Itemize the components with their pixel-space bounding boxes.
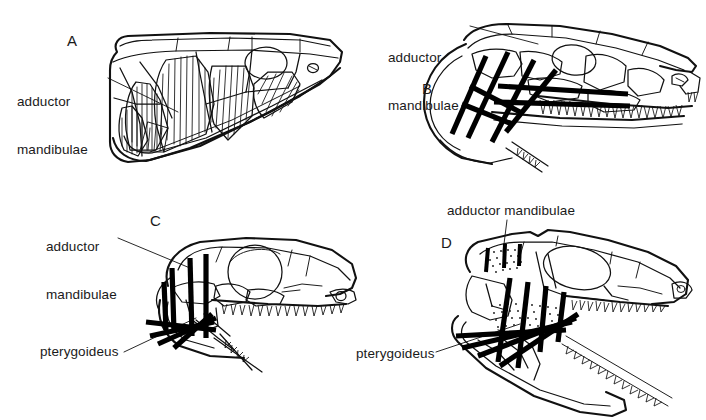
mandible-ridge-a bbox=[150, 86, 300, 152]
naris-detail-a bbox=[309, 66, 317, 70]
suture-c-3 bbox=[306, 256, 310, 276]
panel-a-drawing bbox=[108, 33, 342, 162]
suture-c-1 bbox=[216, 247, 222, 262]
muscle-hatch-a-1 bbox=[132, 84, 162, 150]
label-adductor-mandibulae-b: adductor mandibulae bbox=[388, 18, 459, 146]
mandible-lower-b bbox=[494, 120, 682, 128]
cheek-suture-a-5 bbox=[288, 54, 300, 88]
cheek-b-5 bbox=[628, 68, 664, 96]
label-adductor-mandibulae-c: adductor mandibulae bbox=[46, 207, 117, 335]
panel-d-drawing bbox=[436, 220, 692, 416]
panel-letter-a: A bbox=[67, 32, 77, 49]
cheek-b-4 bbox=[584, 54, 626, 90]
label-line-2: mandibulae bbox=[46, 287, 117, 303]
muscle-bar-d-main-3 bbox=[540, 286, 546, 352]
figure-canvas: A adductor mandibulae B adductor mandibu… bbox=[0, 0, 706, 420]
suture-c-5 bbox=[282, 290, 300, 292]
suture-d-3 bbox=[636, 262, 640, 278]
suture-c-4 bbox=[284, 284, 322, 288]
muscle-hatch-a-3 bbox=[212, 66, 250, 138]
jaw-tooth-line-d2 bbox=[566, 336, 672, 398]
naris-d bbox=[677, 286, 685, 293]
skull-outline-d bbox=[466, 230, 688, 304]
panel-b-drawing bbox=[424, 24, 700, 172]
cheek-suture-a-1 bbox=[120, 68, 142, 156]
suture-d-4 bbox=[618, 286, 662, 294]
suture-b-3 bbox=[596, 31, 600, 44]
panel-letter-d: D bbox=[441, 234, 452, 251]
skull-roof-band-lower-a bbox=[113, 50, 338, 62]
muscle-bar-d-main-4 bbox=[558, 292, 564, 342]
quadrate-inner-d bbox=[486, 284, 506, 310]
orbit-b bbox=[550, 42, 598, 79]
suture-d-5 bbox=[556, 236, 558, 246]
muscle-bar-b-8 bbox=[494, 102, 630, 106]
label-line-1: adductor bbox=[17, 94, 88, 110]
label-adductor-mandibulae-a: adductor mandibulae bbox=[17, 62, 88, 190]
suture-a-2 bbox=[228, 37, 230, 50]
muscle-bar-d-pterygoideus-4 bbox=[500, 314, 578, 366]
naris-detail-b bbox=[676, 78, 684, 82]
suture-b-1 bbox=[508, 25, 512, 34]
muscle-bar-d-adductor-2 bbox=[504, 244, 505, 268]
orbit-d bbox=[539, 240, 615, 296]
muscle-bar-d-adductor-3 bbox=[519, 244, 520, 266]
label-line-1: adductor bbox=[46, 239, 117, 255]
suture-b-4 bbox=[642, 42, 648, 55]
skull-outline-c bbox=[167, 238, 356, 296]
panel-c-drawing bbox=[118, 238, 356, 372]
skull-roof-b bbox=[464, 24, 696, 72]
skull-roof-band-a bbox=[120, 38, 330, 46]
panel-letter-c: C bbox=[150, 212, 161, 229]
retroarticular-b bbox=[506, 148, 542, 172]
muscle-bar-d-adductor-1 bbox=[486, 248, 488, 272]
cheek-bar-d-3 bbox=[604, 286, 628, 300]
process-c-2 bbox=[220, 334, 252, 370]
label-pterygoideus-d: pterygoideus bbox=[356, 346, 435, 362]
label-adductor-mandibulae-d: adductor mandibulae bbox=[447, 203, 575, 219]
cheek-suture-a-6 bbox=[246, 88, 288, 92]
label-pterygoideus-c: pterygoideus bbox=[40, 344, 119, 360]
label-line-1: adductor bbox=[388, 50, 459, 66]
muscle-hatch-a-2 bbox=[161, 56, 210, 146]
label-line-2: mandibulae bbox=[17, 142, 88, 158]
cheek-bar-d-2 bbox=[548, 254, 556, 288]
label-line-2: mandibulae bbox=[388, 98, 459, 114]
